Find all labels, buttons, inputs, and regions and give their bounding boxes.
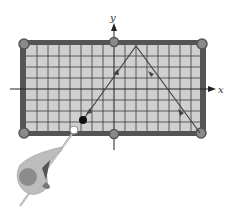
- object-ball: [79, 116, 87, 124]
- pocket-bottom-middle: [110, 130, 119, 139]
- cue-ball: [70, 126, 78, 134]
- player-head: [19, 168, 37, 186]
- pocket-top-middle: [110, 38, 119, 47]
- x-axis-arrow-icon: [208, 86, 216, 92]
- pool-table-diagram: x y: [0, 0, 232, 224]
- y-axis-arrow-icon: [111, 23, 117, 31]
- player-figure: [17, 147, 62, 194]
- pocket-bottom-left: [19, 128, 29, 138]
- x-axis-label: x: [218, 84, 224, 95]
- pocket-top-right: [197, 39, 207, 49]
- table-felt: [26, 45, 200, 131]
- pocket-top-left: [19, 39, 29, 49]
- y-axis-label: y: [109, 12, 116, 23]
